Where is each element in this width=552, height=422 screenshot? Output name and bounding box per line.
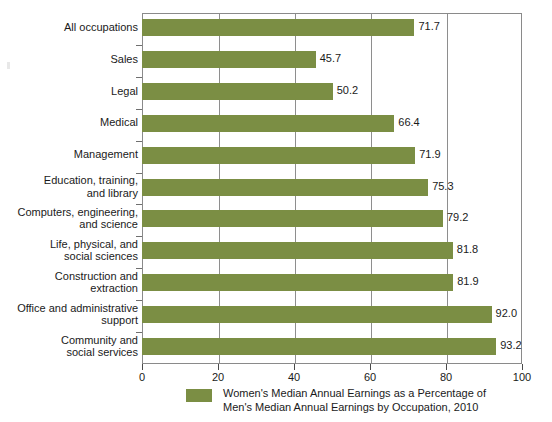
- bar-value-label: 93.2: [496, 337, 521, 354]
- y-axis-tick: [136, 45, 142, 46]
- bar-value-label: 71.7: [414, 18, 439, 35]
- category-label: Community and social services: [0, 334, 138, 359]
- y-axis-tick: [136, 204, 142, 205]
- bar: [142, 179, 428, 196]
- bar: [142, 338, 496, 355]
- y-axis-tick: [136, 109, 142, 110]
- y-axis-category-labels: All occupationsSalesLegalMedicalManageme…: [0, 13, 138, 364]
- category-label: Office and administrative support: [0, 302, 138, 327]
- y-axis-tick: [136, 141, 142, 142]
- category-label: Legal: [0, 85, 138, 98]
- category-label: Medical: [0, 116, 138, 129]
- x-axis-tick: [522, 364, 523, 370]
- bar-row: 93.2: [142, 332, 522, 361]
- legend-swatch: [186, 389, 212, 402]
- bar-value-label: 81.8: [453, 241, 478, 258]
- x-axis-tick-label: 100: [502, 371, 542, 384]
- bar-value-label: 81.9: [453, 273, 478, 290]
- bar-value-label: 79.2: [443, 209, 468, 226]
- bar: [142, 83, 333, 100]
- bar: [142, 210, 443, 227]
- bar-row: 66.4: [142, 109, 522, 138]
- category-label: All occupations: [0, 21, 138, 34]
- bar-row: 45.7: [142, 45, 522, 74]
- bar: [142, 242, 453, 259]
- bar-value-label: 50.2: [333, 82, 358, 99]
- bar-row: 50.2: [142, 77, 522, 106]
- y-axis-tick: [136, 173, 142, 174]
- bar-row: 81.9: [142, 268, 522, 297]
- y-axis-tick: [136, 300, 142, 301]
- x-axis-tick: [142, 364, 143, 370]
- bars-layer: 71.745.750.266.471.975.379.281.881.992.0…: [142, 13, 522, 364]
- bar-row: 79.2: [142, 204, 522, 233]
- category-label: Education, training, and library: [0, 174, 138, 199]
- x-axis-tick: [294, 364, 295, 370]
- bar-row: 71.9: [142, 141, 522, 170]
- bar: [142, 115, 394, 132]
- bar-row: 71.7: [142, 13, 522, 42]
- category-label: Management: [0, 148, 138, 161]
- x-axis-tick-label: 60: [350, 371, 390, 384]
- category-label: Sales: [0, 53, 138, 66]
- bar-value-label: 45.7: [316, 50, 341, 67]
- bar-chart: All occupationsSalesLegalMedicalManageme…: [0, 0, 552, 422]
- bar: [142, 19, 414, 36]
- bar: [142, 274, 453, 291]
- bar-value-label: 71.9: [415, 146, 440, 163]
- bar-value-label: 92.0: [492, 305, 517, 322]
- bar-row: 75.3: [142, 173, 522, 202]
- bar: [142, 306, 492, 323]
- x-axis-tick: [370, 364, 371, 370]
- x-axis-tick: [218, 364, 219, 370]
- bar-row: 92.0: [142, 300, 522, 329]
- bar: [142, 51, 316, 68]
- category-label: Construction and extraction: [0, 270, 138, 295]
- y-axis-tick: [136, 268, 142, 269]
- bar-value-label: 66.4: [394, 114, 419, 131]
- x-axis-tick-label: 40: [274, 371, 314, 384]
- y-axis-tick: [136, 77, 142, 78]
- x-axis-tick: [446, 364, 447, 370]
- bar: [142, 147, 415, 164]
- bar-row: 81.8: [142, 236, 522, 265]
- category-label: Computers, engineering, and science: [0, 206, 138, 231]
- x-axis-tick-label: 80: [426, 371, 466, 384]
- bar-value-label: 75.3: [428, 178, 453, 195]
- x-axis-tick-label: 0: [122, 371, 162, 384]
- legend: Women's Median Annual Earnings as a Perc…: [186, 387, 486, 414]
- legend-label: Women's Median Annual Earnings as a Perc…: [223, 387, 486, 414]
- x-axis: 020406080100: [142, 364, 522, 388]
- category-label: Life, physical, and social sciences: [0, 238, 138, 263]
- x-axis-tick-label: 20: [198, 371, 238, 384]
- y-axis-tick: [136, 332, 142, 333]
- y-axis-tick: [136, 236, 142, 237]
